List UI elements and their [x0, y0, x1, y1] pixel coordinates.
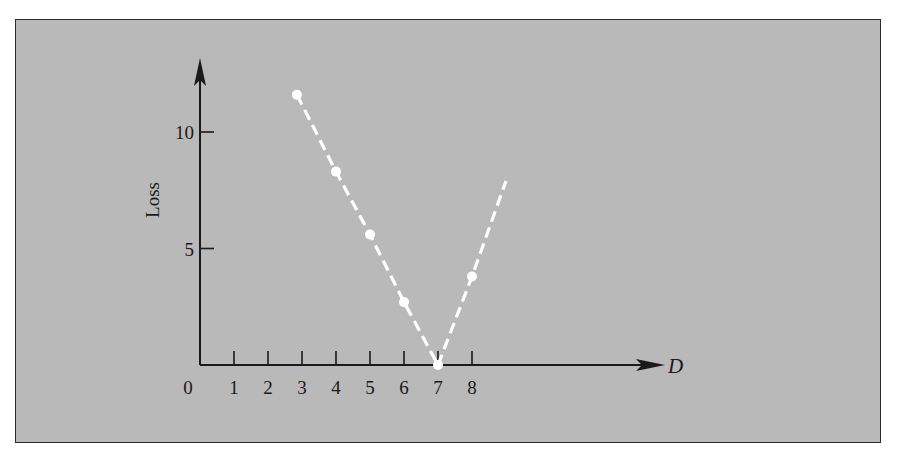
data-point-marker: [331, 167, 341, 177]
data-point-marker: [467, 271, 477, 281]
data-point-marker: [433, 360, 443, 370]
x-tick-label: 0: [183, 377, 193, 398]
data-point-marker: [292, 90, 302, 100]
x-tick-label: 4: [331, 377, 341, 398]
x-tick-label: 8: [467, 377, 477, 398]
x-tick-label: 3: [297, 377, 307, 398]
data-point-marker: [399, 297, 409, 307]
x-tick-label: 1: [229, 377, 239, 398]
data-point-marker: [365, 230, 375, 240]
x-tick-label: 2: [263, 377, 273, 398]
x-tick-label: 7: [433, 377, 443, 398]
x-tick-label: 5: [365, 377, 375, 398]
y-tick-label: 5: [185, 239, 195, 260]
y-axis-label: Loss: [142, 182, 163, 218]
y-tick-label: 10: [175, 122, 194, 143]
x-axis-label: D: [667, 354, 683, 378]
loss-chart: 012345678510LossD: [0, 0, 897, 461]
series-line: [297, 95, 438, 365]
x-tick-label: 6: [399, 377, 409, 398]
